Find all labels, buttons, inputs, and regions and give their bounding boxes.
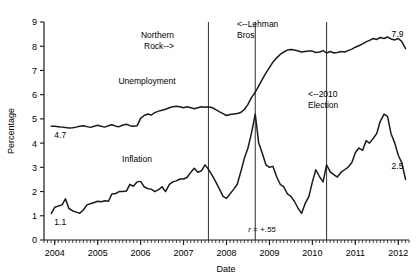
end-value-inflation: 2.5: [392, 161, 404, 171]
event-label-lehman-bros: <--Lehman: [237, 19, 279, 29]
y-tick-label: 7: [32, 66, 37, 76]
x-tick-label: 2008: [216, 248, 236, 258]
series-label-unemployment: Unemployment: [118, 76, 176, 86]
series-label-inflation: Inflation: [122, 154, 152, 164]
y-tick-label: 9: [32, 17, 37, 27]
x-tick-label: 2011: [346, 248, 365, 258]
event-label-northern-rock: Northern: [141, 30, 174, 40]
x-tick-label: 2012: [388, 248, 408, 258]
x-tick-label: 2005: [88, 248, 108, 258]
y-tick-label: 8: [32, 42, 37, 52]
y-tick-label: 3: [32, 163, 37, 173]
y-tick-label: 1: [32, 211, 37, 221]
x-tick-label: 2009: [259, 248, 279, 258]
y-tick-label: 4: [32, 139, 37, 149]
start-value-inflation: 1.1: [54, 217, 66, 227]
x-tick-label: 2010: [302, 248, 322, 258]
y-tick-label: 2: [32, 187, 37, 197]
event-label-election-2010: Election: [308, 100, 339, 110]
annotation-correlation: r = +.55: [248, 225, 276, 234]
x-tick-label: 2007: [174, 248, 194, 258]
start-value-unemployment: 4.7: [54, 130, 66, 140]
y-tick-label: 0: [32, 235, 37, 245]
event-label-lehman-bros: Bros: [237, 30, 254, 40]
x-tick-label: 2004: [45, 248, 65, 258]
y-tick-label: 5: [32, 114, 37, 124]
economic-indicators-line-chart: 0123456789 20042005200620072008200920102…: [0, 0, 419, 280]
event-label-election-2010: <--2010: [308, 89, 338, 99]
chart-annotations: r = +.55: [248, 225, 276, 234]
chart-container: 0123456789 20042005200620072008200920102…: [0, 0, 419, 280]
x-axis-title: Date: [216, 264, 235, 274]
y-tick-label: 6: [32, 90, 37, 100]
end-value-unemployment: 7.9: [392, 29, 404, 39]
y-axis-title: Percentage: [6, 108, 16, 154]
x-tick-label: 2006: [131, 248, 151, 258]
event-label-northern-rock: Rock-->: [144, 41, 174, 51]
